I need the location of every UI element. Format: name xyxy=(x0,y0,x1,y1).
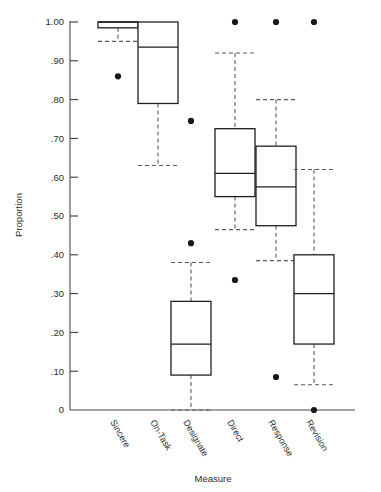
box-plot-group xyxy=(215,53,255,230)
y-tick-label: .10 xyxy=(51,366,64,377)
box-iqr xyxy=(215,129,255,197)
box-plot-figure: 1.00.90.80.70.60.50.40.30.20.100 Sincere… xyxy=(0,0,381,492)
y-tick-label: .40 xyxy=(51,249,64,260)
y-tick-label: 0 xyxy=(59,404,64,415)
box-plot-group xyxy=(138,22,178,166)
x-axis-category-label: Direct xyxy=(225,418,246,444)
y-tick-label: .30 xyxy=(51,288,64,299)
y-tick-label: .20 xyxy=(51,327,64,338)
box-plot-boxes xyxy=(98,22,334,410)
outlier-point xyxy=(273,374,279,380)
x-axis-category-label: Sincere xyxy=(108,418,132,449)
y-tick-label: 1.00 xyxy=(46,16,65,27)
box-plot-group xyxy=(294,169,334,384)
box-plot-svg: 1.00.90.80.70.60.50.40.30.20.100 Sincere… xyxy=(0,0,381,492)
x-axis-category-label: Response xyxy=(266,418,295,458)
outlier-point xyxy=(188,118,194,124)
y-tick-label: .80 xyxy=(51,94,64,105)
box-plot-group xyxy=(98,22,138,41)
outlier-point xyxy=(188,240,194,246)
x-axis-category-label: Designate xyxy=(181,418,210,458)
x-axis-category-label: Revision xyxy=(304,418,330,453)
axis-lines xyxy=(70,21,355,410)
box-iqr xyxy=(256,146,296,226)
outlier-point xyxy=(115,73,121,79)
y-tick-label: .70 xyxy=(51,133,64,144)
box-iqr xyxy=(98,22,138,28)
x-axis-title: Measure xyxy=(195,473,232,484)
box-plot-group xyxy=(256,100,296,261)
box-iqr xyxy=(138,22,178,103)
outlier-point xyxy=(311,407,317,413)
y-tick-label: .60 xyxy=(51,172,64,183)
box-plot-group xyxy=(171,263,211,410)
x-axis-category-labels: SincereOn-TaskDesignateDirectResponseRev… xyxy=(108,418,330,458)
outlier-point xyxy=(232,19,238,25)
y-tick-label: .50 xyxy=(51,210,64,221)
x-axis-category-label: On-Task xyxy=(148,418,174,452)
outlier-point xyxy=(232,277,238,283)
y-tick-label: .90 xyxy=(51,55,64,66)
outlier-point xyxy=(273,19,279,25)
outlier-point xyxy=(311,19,317,25)
y-axis-title: Proportion xyxy=(13,193,24,237)
box-iqr xyxy=(294,255,334,344)
y-axis-ticks: 1.00.90.80.70.60.50.40.30.20.100 xyxy=(46,16,79,415)
box-iqr xyxy=(171,301,211,375)
